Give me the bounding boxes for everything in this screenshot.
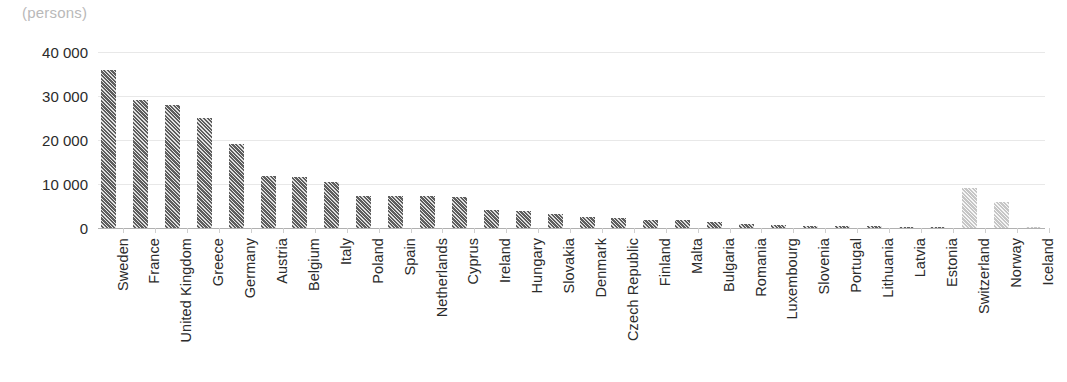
x-tick [634, 228, 635, 233]
x-category-label: Ireland [497, 238, 513, 283]
y-tick-label: 30 000 [0, 88, 88, 105]
gridline [98, 140, 1045, 141]
x-category-label: Denmark [593, 238, 609, 298]
x-tick [123, 228, 124, 233]
x-tick [666, 228, 667, 233]
x-category-label: Sweden [115, 238, 131, 291]
bar-czech-republic[interactable] [611, 218, 626, 228]
x-tick [538, 228, 539, 233]
bar-slovakia[interactable] [548, 214, 563, 228]
gridline [98, 52, 1045, 53]
bar-denmark[interactable] [580, 217, 595, 228]
bar-poland[interactable] [356, 196, 371, 228]
bar-italy[interactable] [324, 182, 339, 228]
x-category-label: Lithuania [880, 238, 896, 298]
y-tick-label: 40 000 [0, 44, 88, 61]
bar-romania[interactable] [739, 224, 754, 228]
x-category-label: Bulgaria [721, 238, 737, 292]
bar-malta[interactable] [675, 220, 690, 228]
y-tick-label: 0 [0, 220, 88, 237]
bar-greece[interactable] [197, 118, 212, 228]
bar-netherlands[interactable] [420, 196, 435, 228]
bar-switzerland[interactable] [962, 188, 977, 228]
x-category-label: Spain [402, 238, 418, 276]
x-tick [793, 228, 794, 233]
bar-bulgaria[interactable] [707, 222, 722, 228]
x-tick [889, 228, 890, 233]
x-tick [953, 228, 954, 233]
x-category-label: Finland [657, 238, 673, 286]
bar-hungary[interactable] [516, 211, 531, 228]
bar-estonia[interactable] [930, 227, 945, 228]
x-category-label: Slovakia [561, 238, 577, 294]
x-tick [283, 228, 284, 233]
x-category-label: Romania [753, 238, 769, 297]
x-tick [985, 228, 986, 233]
x-tick [187, 228, 188, 233]
x-tick [474, 228, 475, 233]
bar-united-kingdom[interactable] [165, 105, 180, 228]
x-category-label: Luxembourg [784, 238, 800, 320]
x-category-label: Poland [370, 238, 386, 284]
bar-germany[interactable] [229, 144, 244, 228]
x-category-label: Italy [338, 238, 354, 265]
x-tick [761, 228, 762, 233]
x-category-label: Malta [689, 238, 705, 274]
x-category-label: Norway [1008, 238, 1024, 288]
x-category-label: Iceland [1040, 238, 1056, 285]
x-category-label: Portugal [848, 238, 864, 293]
y-tick-label: 20 000 [0, 132, 88, 149]
bar-sweden[interactable] [101, 70, 116, 228]
x-tick [379, 228, 380, 233]
x-tick [857, 228, 858, 233]
x-tick [411, 228, 412, 233]
x-category-label: Czech Republic [625, 238, 641, 341]
axis-baseline [98, 228, 1045, 229]
bar-france[interactable] [133, 100, 148, 228]
bar-portugal[interactable] [835, 226, 850, 228]
x-tick [730, 228, 731, 233]
bar-luxembourg[interactable] [771, 225, 786, 228]
x-tick [347, 228, 348, 233]
bar-chart: (persons) 40 00030 00020 00010 0000 Swed… [0, 0, 1067, 382]
bar-belgium[interactable] [292, 177, 307, 228]
x-tick [155, 228, 156, 233]
x-category-label: Germany [242, 238, 258, 298]
x-category-label: Greece [210, 238, 226, 286]
x-category-label: Slovenia [816, 238, 832, 294]
x-category-label: Hungary [529, 238, 545, 294]
x-tick [825, 228, 826, 233]
x-tick [219, 228, 220, 233]
x-tick [1017, 228, 1018, 233]
x-category-label: Switzerland [976, 238, 992, 314]
y-tick-label: 10 000 [0, 176, 88, 193]
x-tick [315, 228, 316, 233]
bar-slovenia[interactable] [803, 226, 818, 228]
bar-austria[interactable] [261, 176, 276, 228]
bar-spain[interactable] [388, 196, 403, 228]
x-category-label: Latvia [912, 238, 928, 277]
x-category-label: Belgium [306, 238, 322, 291]
x-tick [251, 228, 252, 233]
x-tick [442, 228, 443, 233]
x-tick [570, 228, 571, 233]
x-category-label: Estonia [944, 238, 960, 287]
bar-norway[interactable] [994, 202, 1009, 228]
x-category-label: Austria [274, 238, 290, 284]
x-category-label: United Kingdom [178, 238, 194, 343]
bar-ireland[interactable] [484, 210, 499, 228]
gridline [98, 96, 1045, 97]
x-tick [602, 228, 603, 233]
x-tick [921, 228, 922, 233]
x-category-label: France [146, 238, 162, 284]
bar-latvia[interactable] [899, 227, 914, 228]
x-category-label: Netherlands [434, 238, 450, 317]
x-category-label: Cyprus [465, 238, 481, 285]
bar-finland[interactable] [643, 220, 658, 228]
x-tick [506, 228, 507, 233]
bar-iceland[interactable] [1026, 227, 1041, 228]
x-tick [698, 228, 699, 233]
bar-lithuania[interactable] [867, 226, 882, 228]
bar-cyprus[interactable] [452, 197, 467, 228]
x-tick [1049, 228, 1050, 233]
